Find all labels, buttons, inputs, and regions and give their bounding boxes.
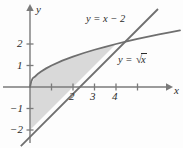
sqrt-expression: √x bbox=[135, 53, 147, 66]
annotation-curve-equation: y = √x bbox=[118, 53, 147, 66]
x-axis-label: x bbox=[174, 85, 179, 96]
figure-canvas: y x 2 1 −1 −2 2 3 4 y = x − 2 y = √x bbox=[0, 0, 183, 148]
y-tick-label-1: 1 bbox=[17, 60, 23, 71]
radical-sign: √ bbox=[136, 53, 142, 65]
x-tick-label-3: 3 bbox=[90, 91, 96, 102]
y-tick-label-2: 2 bbox=[17, 38, 23, 49]
x-axis-arrowhead bbox=[166, 83, 173, 91]
x-tick-label-4: 4 bbox=[112, 91, 118, 102]
y-axis-label: y bbox=[36, 4, 41, 15]
x-tick-label-2: 2 bbox=[69, 91, 75, 102]
annotation-curve-prefix: y = bbox=[118, 54, 135, 65]
y-axis-arrowhead bbox=[26, 4, 33, 11]
y-tick-label-minus-2: −2 bbox=[10, 124, 23, 135]
y-tick-label-minus-1: −1 bbox=[10, 103, 23, 114]
annotation-line-equation: y = x − 2 bbox=[86, 14, 125, 25]
